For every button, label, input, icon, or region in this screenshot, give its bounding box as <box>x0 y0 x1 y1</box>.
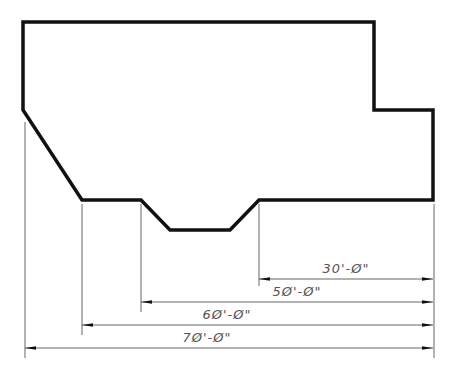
arrowhead-right-icon <box>422 323 433 327</box>
dimension-label: 30'-Ø" <box>322 261 369 276</box>
dimension-label: 7Ø'-Ø" <box>183 330 232 345</box>
dimension-label: 6Ø'-Ø" <box>203 307 252 322</box>
dimension-0: 30'-Ø" <box>259 261 433 281</box>
dimension-1: 5Ø'-Ø" <box>141 284 433 304</box>
dimension-lines: 30'-Ø"5Ø'-Ø"6Ø'-Ø"7Ø'-Ø" <box>25 261 433 350</box>
building-outline <box>23 22 433 230</box>
dimension-2: 6Ø'-Ø" <box>82 307 433 327</box>
arrowhead-right-icon <box>422 346 433 350</box>
arrowhead-left-icon <box>259 277 270 281</box>
extension-lines <box>25 122 434 358</box>
arrowhead-left-icon <box>141 300 152 304</box>
arrowhead-left-icon <box>25 346 36 350</box>
dimension-3: 7Ø'-Ø" <box>25 330 433 350</box>
dimension-label: 5Ø'-Ø" <box>273 284 322 299</box>
arrowhead-right-icon <box>422 277 433 281</box>
arrowhead-left-icon <box>82 323 93 327</box>
floor-plan-drawing: 30'-Ø"5Ø'-Ø"6Ø'-Ø"7Ø'-Ø" <box>0 0 452 375</box>
arrowhead-right-icon <box>422 300 433 304</box>
